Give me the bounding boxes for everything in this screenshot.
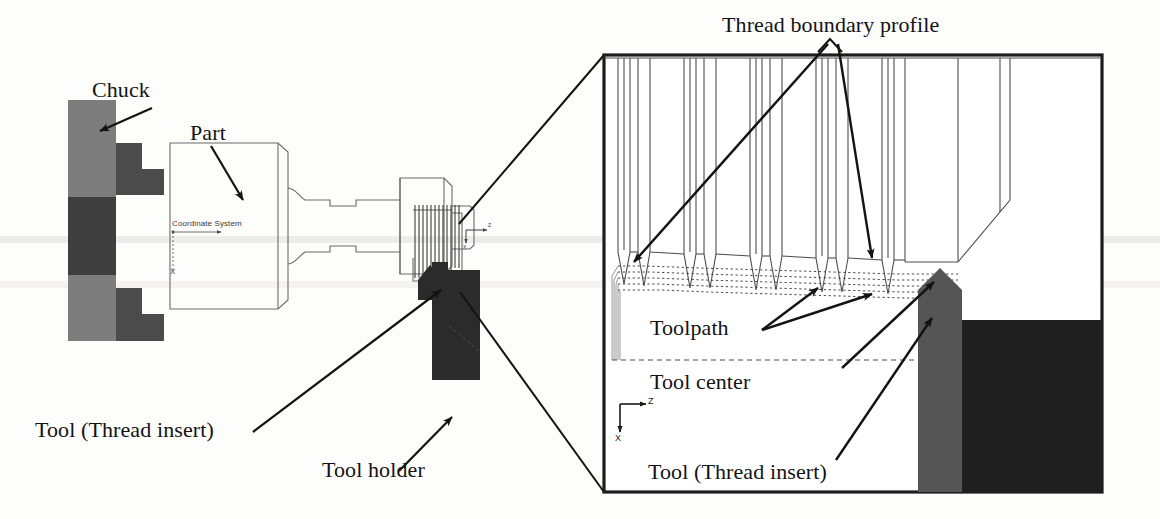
label-part-x-axis: X — [170, 268, 175, 276]
chuck-body — [68, 100, 164, 341]
detail-axis-z-letter: Z — [648, 396, 654, 406]
leader-part — [211, 146, 243, 200]
label-toolpath: Toolpath — [650, 317, 729, 339]
label-chuck: Chuck — [92, 79, 150, 101]
leader-tool-insert-overview — [253, 290, 441, 432]
overview-axis-x-letter: X — [463, 244, 466, 250]
tool-holder-detail — [962, 320, 1102, 492]
overview-axis-indicator — [466, 230, 487, 243]
detail-axis-x-letter: X — [615, 433, 621, 443]
label-thread-boundary-profile: Thread boundary profile — [722, 14, 939, 36]
label-tool-center: Tool center — [650, 371, 750, 393]
label-tool-insert-overview: Tool (Thread insert) — [35, 419, 214, 441]
label-tool-insert-detail: Tool (Thread insert) — [648, 461, 827, 483]
label-tool-holder: Tool holder — [322, 459, 425, 481]
tool-insert-detail — [918, 268, 962, 492]
overview-axis-z-letter: Z — [488, 222, 491, 228]
label-coordinate-system: Coordinate System — [172, 220, 242, 228]
magnifier-connector-lines — [459, 55, 604, 492]
label-part: Part — [190, 122, 226, 144]
figure-root: Chuck Part Coordinate System X Z X Tool … — [0, 0, 1160, 519]
part-coordinate-dimension — [172, 231, 221, 270]
